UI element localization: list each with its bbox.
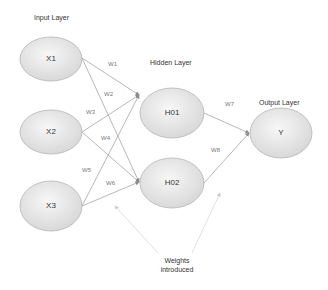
edge-w7 [204, 113, 249, 133]
diagram-canvas [0, 0, 328, 290]
neural-network-diagram: Input Layer Hidden Layer Output Layer X1… [0, 0, 328, 290]
annotation-arrow-right [192, 193, 220, 253]
weight-label-w3: W3 [86, 109, 95, 115]
weight-label-w7: W7 [225, 101, 234, 107]
weights-introduced-note: Weights introduced [155, 256, 199, 274]
hidden-layer-label: Hidden Layer [150, 59, 192, 66]
node-h02-label: H02 [157, 178, 187, 187]
node-h01-label: H01 [157, 108, 187, 117]
output-layer-label: Output Layer [259, 99, 299, 106]
note-line-2: introduced [155, 265, 199, 274]
annotation-arrow-left [115, 206, 158, 253]
note-line-1: Weights [155, 256, 199, 265]
weight-label-w2: W2 [104, 91, 113, 97]
input-layer-label: Input Layer [34, 14, 69, 21]
node-x2-label: X2 [36, 127, 66, 136]
weight-label-w5: W5 [82, 167, 91, 173]
edge-w8 [204, 133, 249, 183]
weight-label-w4: W4 [101, 135, 110, 141]
edge-w4 [82, 132, 139, 182]
node-y-label: Y [266, 128, 296, 137]
node-x1-label: X1 [36, 54, 66, 63]
node-x3-label: X3 [36, 201, 66, 210]
weight-label-w6: W6 [106, 180, 115, 186]
weight-label-w1: W1 [108, 61, 117, 67]
weight-label-w8: W8 [211, 147, 220, 153]
